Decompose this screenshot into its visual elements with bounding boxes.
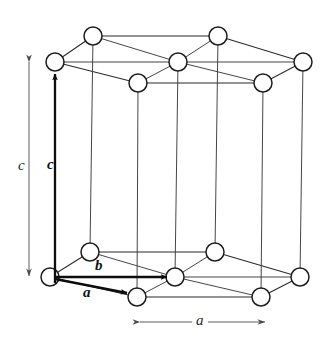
atom-bottom-center — [166, 268, 184, 286]
dimension-label-c: c — [18, 158, 25, 173]
vector-label-c: c — [47, 157, 54, 172]
atom-top-front-left — [129, 74, 147, 92]
vector-label-b: b — [95, 258, 103, 273]
vertical-prism-edges — [90, 36, 303, 297]
lattice-drawing — [0, 0, 331, 352]
atom-bottom-right — [291, 268, 309, 286]
vector-label-a: a — [83, 285, 91, 300]
atom-top-center — [169, 53, 187, 71]
atom-top-front-right — [254, 74, 272, 92]
atom-bottom-front-left — [128, 288, 146, 306]
atom-top-back-left — [46, 53, 64, 71]
atom-top-back-mid — [84, 27, 102, 45]
dimension-label-a: a — [192, 313, 208, 328]
atom-bottom-front-right — [252, 288, 270, 306]
lattice-vector-a — [55, 279, 127, 293]
atom-top-right — [294, 53, 312, 71]
atom-bottom-back-right — [206, 243, 224, 261]
hcp-unit-cell-figure: c c b a a — [0, 0, 331, 352]
atom-top-back-right — [209, 27, 227, 45]
atom-group-top — [46, 27, 312, 92]
